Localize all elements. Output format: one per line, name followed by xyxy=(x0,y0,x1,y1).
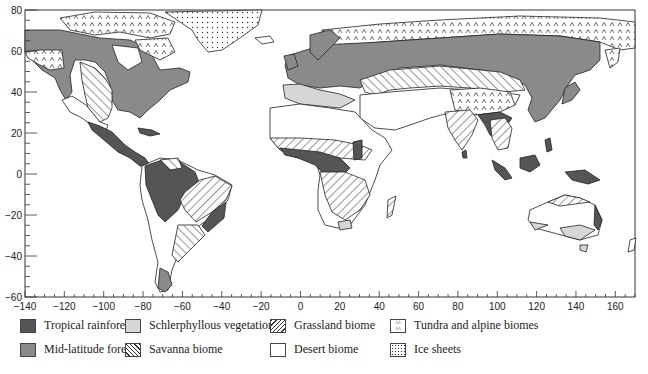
x-tick-label: −20 xyxy=(253,301,270,312)
india-savanna xyxy=(445,110,478,150)
sa-pampas xyxy=(172,225,205,262)
schlerphyllous-swatch-icon xyxy=(125,319,141,333)
y-tick-label: 60 xyxy=(11,46,23,57)
x-tick-label: 120 xyxy=(528,301,545,312)
north-america xyxy=(25,12,190,166)
y-tick-label: 20 xyxy=(11,128,23,139)
x-tick-label: 160 xyxy=(607,301,624,312)
x-axis: −140−120−100−80−60−40−200204060801001201… xyxy=(14,291,635,312)
kamchatka xyxy=(605,48,620,68)
australia xyxy=(528,195,636,252)
philippines xyxy=(545,138,552,152)
legend-item-mid-latitude-forest: Mid-latitude forest xyxy=(20,342,134,357)
south-america xyxy=(140,158,232,292)
caribbean-islands xyxy=(138,128,160,136)
x-tick-label: −100 xyxy=(92,301,115,312)
legend-label: Mid-latitude forest xyxy=(44,342,134,357)
x-tick-label: 140 xyxy=(568,301,585,312)
sumatra xyxy=(492,160,512,180)
legend-label: Desert biome xyxy=(294,342,358,357)
savanna-swatch-icon xyxy=(125,343,141,357)
y-tick-label: 0 xyxy=(16,169,22,180)
x-tick-label: −80 xyxy=(135,301,152,312)
legend-label: Tropical rainforest xyxy=(44,318,133,333)
x-tick-label: 0 xyxy=(298,301,304,312)
legend-item-schlerphyllous: Schlerphyllous vegetation xyxy=(125,318,274,333)
tundra-swatch-icon: ^^^^ xyxy=(390,319,406,333)
y-tick-label: 40 xyxy=(11,87,23,98)
legend-item-ice-sheets: Ice sheets xyxy=(390,342,461,357)
south-africa-schlerphyllous xyxy=(338,220,352,230)
legend: Tropical rainforest Mid-latitude forest … xyxy=(0,318,648,374)
madagascar xyxy=(387,196,396,218)
x-tick-label: 20 xyxy=(334,301,346,312)
x-tick-label: −120 xyxy=(53,301,76,312)
borneo xyxy=(520,155,540,172)
legend-label: Savanna biome xyxy=(149,342,223,357)
greenland-ice-sheet xyxy=(165,10,262,52)
legend-item-desert: Desert biome xyxy=(270,342,358,357)
australia-east-rainforest xyxy=(594,205,602,230)
legend-item-grassland: Grassland biome xyxy=(270,318,375,333)
indochina-savanna xyxy=(490,118,512,150)
x-tick-label: −40 xyxy=(213,301,230,312)
horn-rainforest xyxy=(353,140,362,160)
y-tick-label: −40 xyxy=(5,251,22,262)
alaska-tundra xyxy=(25,50,64,70)
new-guinea xyxy=(565,170,600,184)
x-tick-label: 60 xyxy=(413,301,425,312)
legend-item-tropical-rainforest: Tropical rainforest xyxy=(20,318,133,333)
y-tick-label: −20 xyxy=(5,210,22,221)
legend-item-savanna: Savanna biome xyxy=(125,342,223,357)
mid-latitude-forest-swatch-icon xyxy=(20,343,36,357)
x-tick-label: 80 xyxy=(452,301,464,312)
ice-sheets-swatch-icon xyxy=(390,343,406,357)
grassland-swatch-icon xyxy=(270,319,286,333)
x-tick-label: −60 xyxy=(174,301,191,312)
x-tick-label: 100 xyxy=(489,301,506,312)
y-tick-label: 80 xyxy=(11,5,23,16)
iceland xyxy=(255,36,274,44)
legend-label: Ice sheets xyxy=(414,342,461,357)
x-tick-label: −140 xyxy=(14,301,37,312)
legend-label: Tundra and alpine biomes xyxy=(414,318,539,333)
x-tick-label: 40 xyxy=(374,301,386,312)
legend-item-tundra: ^^^^ Tundra and alpine biomes xyxy=(390,318,539,333)
legend-label: Schlerphyllous vegetation xyxy=(149,318,274,333)
legend-label: Grassland biome xyxy=(294,318,375,333)
tasmania xyxy=(580,245,588,252)
tropical-rainforest-swatch-icon xyxy=(20,319,36,333)
sri-lanka xyxy=(462,150,467,158)
desert-swatch-icon xyxy=(270,343,286,357)
